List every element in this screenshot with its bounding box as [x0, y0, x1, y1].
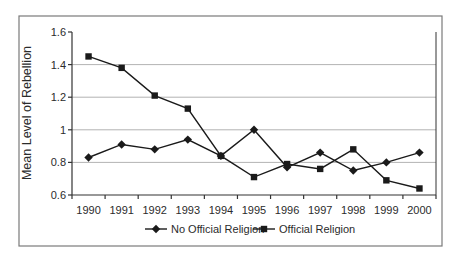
- x-tick-label: 1995: [242, 204, 266, 216]
- marker-square: [152, 92, 158, 98]
- marker-square: [218, 153, 224, 159]
- marker-square: [350, 146, 356, 152]
- y-tick-label: 1.4: [51, 59, 66, 71]
- x-tick-label: 1999: [374, 204, 398, 216]
- marker-square: [185, 105, 191, 111]
- legend-label: Official Religion: [279, 223, 355, 235]
- marker-square: [261, 226, 267, 232]
- y-tick-label: 1.6: [51, 26, 66, 38]
- marker-square: [416, 185, 422, 191]
- y-tick-label: 1.2: [51, 91, 66, 103]
- marker-square: [118, 65, 124, 71]
- chart-figure: 0.60.811.21.41.6199019911992199319941995…: [0, 0, 464, 263]
- x-tick-label: 1990: [76, 204, 100, 216]
- y-tick-label: 1: [60, 124, 66, 136]
- y-tick-label: 0.8: [51, 156, 66, 168]
- marker-square: [383, 177, 389, 183]
- rebellion-line-chart: 0.60.811.21.41.6199019911992199319941995…: [0, 0, 464, 263]
- x-tick-label: 1996: [275, 204, 299, 216]
- y-axis-title: Mean Level of Rebellion: [20, 46, 34, 180]
- x-tick-label: 1994: [209, 204, 233, 216]
- x-tick-label: 1991: [109, 204, 133, 216]
- y-tick-label: 0.6: [51, 189, 66, 201]
- x-tick-label: 2000: [407, 204, 431, 216]
- marker-square: [85, 53, 91, 59]
- marker-square: [284, 161, 290, 167]
- legend: No Official ReligionOfficial Religion: [145, 223, 355, 235]
- marker-square: [317, 166, 323, 172]
- x-tick-label: 1992: [142, 204, 166, 216]
- legend-label: No Official Religion: [171, 223, 264, 235]
- marker-square: [251, 174, 257, 180]
- x-tick-label: 1993: [176, 204, 200, 216]
- x-tick-label: 1998: [341, 204, 365, 216]
- x-tick-label: 1997: [308, 204, 332, 216]
